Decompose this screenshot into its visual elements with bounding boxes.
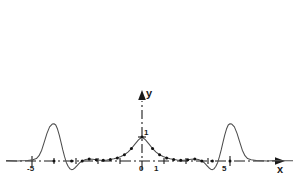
sample-point-marker (88, 158, 91, 161)
sample-point-marker (186, 158, 189, 161)
x-tick-label-zero: 0 (139, 165, 143, 173)
sample-point-marker (158, 153, 161, 156)
sample-point-marker (229, 160, 232, 163)
sample-point-marker (200, 160, 203, 163)
sample-point-marker (151, 147, 154, 150)
y-axis-arrow-icon (138, 90, 146, 100)
y-tick-label-one: 1 (144, 129, 148, 137)
sample-point-marker (130, 147, 133, 150)
function-plot-figure: -5 0 1 5 1 x y (0, 0, 293, 185)
x-axis-label: x (277, 164, 283, 175)
sample-point-marker (179, 159, 182, 162)
sample-point-marker (123, 153, 126, 156)
sample-point-marker (70, 160, 73, 163)
sample-point-marker (102, 159, 105, 162)
sample-point-marker (193, 158, 196, 161)
x-tick-label-one: 1 (154, 165, 158, 173)
sample-point-marker (172, 158, 175, 161)
function-curve (6, 124, 293, 170)
x-tick-label-five: 5 (222, 165, 226, 173)
sample-point-marker (81, 160, 84, 163)
function-curve-path (6, 124, 293, 170)
y-axis-label: y (146, 88, 152, 99)
sample-point-marker (116, 156, 119, 159)
x-tick-label-neg5: -5 (27, 165, 34, 173)
sample-point-marker (165, 156, 168, 159)
sample-point-marker (95, 158, 98, 161)
sample-point-marker (211, 160, 214, 163)
sample-point-marker (53, 160, 56, 163)
sample-point-marker (109, 158, 112, 161)
